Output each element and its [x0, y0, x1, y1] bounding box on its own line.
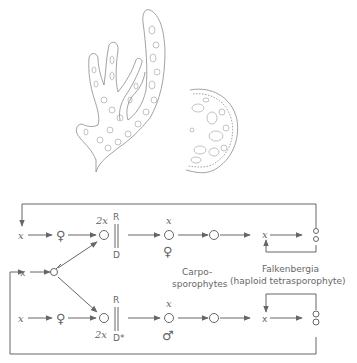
label-R-bottom: R — [113, 295, 119, 305]
label-x-falk-top: x — [262, 229, 268, 240]
label-2x-top: 2x — [95, 215, 108, 226]
haploid-tetrasporophyte-label: (haploid tetrasporophyte) — [230, 276, 346, 286]
cystocarp-section-drawing — [186, 89, 238, 173]
label-2x-bottom: 2x — [94, 329, 107, 340]
carposporophytes-label-1: Carpo- — [182, 267, 212, 277]
carposporophytes-label-2: sporophytes — [172, 279, 228, 289]
life-cycle-figure: x ♀ 2x R D x ♀ x x ​ Carpo- sporophytes … — [0, 0, 357, 363]
label-D-top: D — [113, 250, 120, 260]
branched-thallus-drawing — [76, 10, 165, 172]
female-symbol-top: ♀ — [56, 228, 66, 243]
label-x-bottom: x — [18, 313, 24, 324]
label-x-spore-top: x — [166, 215, 172, 226]
male-symbol-spore: ♂ — [162, 328, 174, 343]
label-x-falk-bottom: x — [262, 314, 268, 324]
female-symbol-bottom: ♀ — [56, 311, 66, 326]
label-x-middle: x — [20, 268, 26, 278]
label-R-top: R — [113, 212, 119, 222]
label-D-star-bottom: D* — [113, 333, 125, 343]
label-x-spore-bottom: x — [166, 298, 172, 309]
label-x-top: x — [18, 230, 24, 241]
diagram-labels: x ♀ 2x R D x ♀ x x ​ Carpo- sporophytes … — [18, 212, 346, 343]
female-symbol-spore: ♀ — [163, 244, 173, 259]
falkenbergia-label: Falkenbergia — [262, 264, 319, 274]
